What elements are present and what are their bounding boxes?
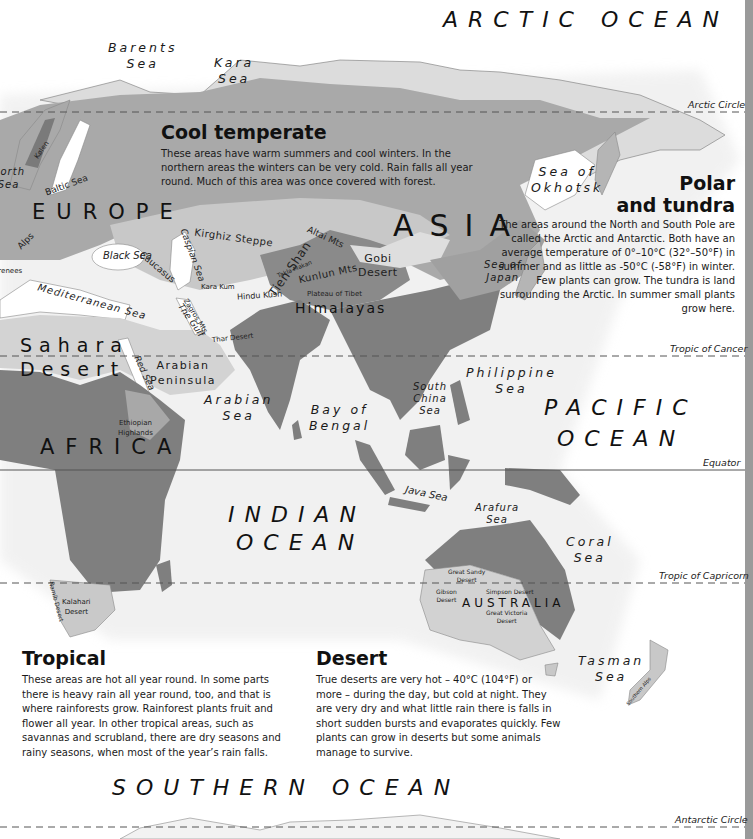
kalahari-desert-label: KalahariDesert — [62, 597, 91, 617]
cool-temperate-title: Cool temperate — [161, 121, 481, 143]
philippine-sea-label: PhilippineSea — [466, 365, 557, 397]
cool-temperate-panel: Cool temperate These areas have warm sum… — [161, 121, 481, 189]
tropical-text: These areas are hot all year round. In s… — [22, 673, 287, 760]
plateau-of-tibet-label: Plateau of Tibet — [307, 290, 362, 298]
sahara-desert-label: SaharaDesert — [20, 333, 129, 381]
arctic-circle-label: Arctic Circle — [688, 99, 745, 110]
southern-ocean-label: SOUTHERN OCEAN — [112, 775, 460, 800]
africa-label: AFRICA — [40, 435, 182, 459]
coral-sea-label: CoralSea — [566, 534, 614, 566]
kara-sea-label: KaraSea — [214, 55, 254, 87]
desert-text: True deserts are very hot – 40°C (104°F)… — [316, 673, 561, 760]
polar-tundra-title: Polar and tundra — [498, 172, 735, 216]
south-china-sea-label: SouthChinaSea — [413, 381, 447, 417]
polar-tundra-text: The areas around the North and South Pol… — [498, 218, 735, 316]
barents-sea-label: BarentsSea — [108, 40, 177, 72]
north-sea-label: NorthSea — [0, 165, 25, 191]
europe-label: EUROPE — [32, 200, 184, 224]
arctic-ocean-label: ARCTIC OCEAN — [443, 7, 729, 32]
great-sandy-desert-label: Great SandyDesert — [448, 568, 485, 584]
kara-kum-label: Kara Kum — [201, 283, 235, 291]
arabian-sea-label: ArabianSea — [204, 392, 273, 424]
gibson-desert-label: GibsonDesert — [436, 588, 457, 604]
simpson-desert-label: Simpson Desert — [486, 588, 534, 595]
indian-ocean-label-2: OCEAN — [236, 530, 364, 555]
pacific-ocean-label-2: OCEAN — [557, 426, 685, 451]
desert-panel: Desert True deserts are very hot – 40°C … — [316, 647, 561, 760]
equator-label: Equator — [703, 457, 740, 468]
indian-ocean-label-1: INDIAN — [228, 502, 366, 527]
ethiopian-highlands-label: EthiopianHighlands — [118, 418, 153, 438]
gobi-desert-label: GobiDesert — [358, 252, 398, 280]
cool-temperate-text: These areas have warm summers and cool w… — [161, 147, 481, 189]
arafura-sea-label: ArafuraSea — [475, 502, 519, 526]
tropical-title: Tropical — [22, 647, 287, 669]
australia-label: AUSTRALIA — [462, 596, 564, 610]
tasman-sea-label: TasmanSea — [578, 653, 644, 685]
desert-title: Desert — [316, 647, 561, 669]
pyrenees-label: Pyrenees — [0, 267, 22, 275]
himalayas-label: Himalayas — [295, 300, 386, 316]
climate-map: Arctic Circle Tropic of Cancer Equator T… — [0, 0, 753, 839]
tropic-of-capricorn-label: Tropic of Capricorn — [659, 570, 749, 581]
arabian-peninsula-label: ArabianPeninsula — [150, 358, 216, 388]
tropic-of-cancer-label: Tropic of Cancer — [670, 343, 747, 354]
polar-tundra-panel: Polar and tundra The areas around the No… — [498, 172, 735, 316]
great-victoria-desert-label: Great VictoriaDesert — [486, 609, 527, 625]
tropical-panel: Tropical These areas are hot all year ro… — [22, 647, 287, 760]
pacific-ocean-label-1: PACIFIC — [544, 395, 698, 420]
scrollbar[interactable] — [745, 0, 753, 839]
antarctic-circle-label: Antarctic Circle — [675, 814, 748, 825]
bay-of-bengal-label: Bay ofBengal — [309, 402, 370, 434]
